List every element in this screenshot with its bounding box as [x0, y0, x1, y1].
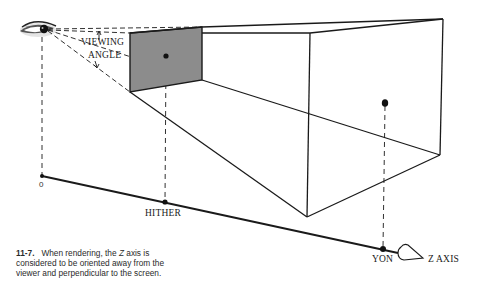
yon-axis-point [380, 246, 386, 252]
hither-screen [130, 27, 202, 92]
viewing-cone-icon [398, 244, 423, 260]
caption-z: Z [119, 248, 124, 258]
label-angle: ANGLE [88, 51, 121, 61]
label-origin: 0 [39, 181, 43, 189]
label-yon: YON [372, 255, 393, 265]
label-viewing: VIEWING [81, 38, 124, 48]
yon-point [382, 99, 388, 107]
hither-axis-point [162, 199, 167, 204]
caption-text-start: When rendering, the [41, 248, 116, 258]
caption-number: 11-7. [16, 248, 34, 258]
viewing-frustum-diagram: VIEWING ANGLE 0 HITHER YON Z AXIS 11-7. … [0, 0, 479, 298]
label-z-axis: Z AXIS [428, 255, 459, 265]
label-hither: HITHER [145, 209, 181, 219]
origin-point [40, 174, 44, 178]
figure-caption: 11-7. When rendering, the Z axis is cons… [16, 248, 168, 279]
z-axis-line [42, 176, 398, 253]
drop-lines [42, 37, 385, 249]
hither-point [163, 53, 168, 58]
